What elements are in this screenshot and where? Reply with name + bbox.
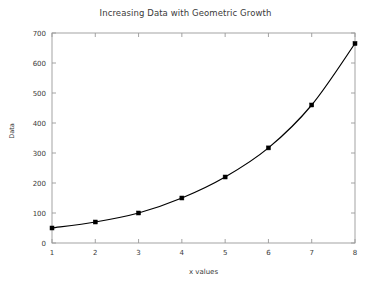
data-point-marker — [137, 211, 141, 215]
x-tick-label: 3 — [136, 249, 140, 257]
chart-figure: Increasing Data with Geometric Growth Da… — [0, 0, 371, 286]
y-tick-label: 600 — [33, 60, 46, 68]
y-tick-label: 200 — [33, 180, 46, 188]
data-point-marker — [266, 146, 270, 150]
data-markers — [50, 42, 357, 231]
y-tick-label: 0 — [42, 240, 46, 248]
x-tick-label: 1 — [50, 249, 54, 257]
data-point-marker — [93, 220, 97, 224]
x-tick-label: 5 — [223, 249, 227, 257]
x-tick-label: 4 — [180, 249, 185, 257]
data-point-marker — [353, 42, 357, 46]
y-tick-label: 500 — [33, 90, 46, 98]
data-point-marker — [50, 226, 54, 230]
axes-frame — [52, 33, 355, 243]
y-tick-label: 300 — [33, 150, 46, 158]
data-point-marker — [180, 196, 184, 200]
x-tick-label: 6 — [266, 249, 271, 257]
data-point-marker — [310, 103, 314, 107]
y-tick-label: 100 — [33, 210, 46, 218]
y-tick-label: 700 — [33, 30, 46, 38]
data-line — [52, 44, 355, 229]
data-line-path — [52, 44, 355, 229]
y-axis-ticks: 0100200300400500600700 — [33, 30, 355, 248]
x-tick-label: 7 — [309, 249, 313, 257]
plot-area: 0100200300400500600700 12345678 — [0, 0, 371, 286]
y-tick-label: 400 — [33, 120, 46, 128]
x-tick-label: 8 — [353, 249, 357, 257]
x-tick-label: 2 — [93, 249, 97, 257]
data-point-marker — [223, 175, 227, 179]
